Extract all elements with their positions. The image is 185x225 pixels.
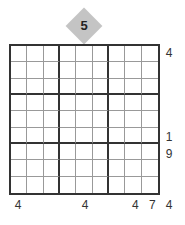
grid-cell[interactable]: [27, 111, 43, 127]
grid-cell[interactable]: [44, 46, 60, 62]
grid-cell[interactable]: [93, 95, 109, 111]
grid-cell[interactable]: [76, 46, 92, 62]
grid-cell[interactable]: [93, 46, 109, 62]
grid-cell[interactable]: [142, 128, 158, 144]
grid-cell[interactable]: [44, 128, 60, 144]
grid-cell[interactable]: [109, 177, 125, 193]
grid-cell[interactable]: [125, 79, 141, 95]
grid-cell[interactable]: [11, 111, 27, 127]
grid-cell[interactable]: [125, 95, 141, 111]
bottom-clue: 7: [145, 198, 159, 212]
grid-cell[interactable]: [142, 46, 158, 62]
grid-cell[interactable]: [109, 95, 125, 111]
grid-cell[interactable]: [60, 62, 76, 78]
grid-cell[interactable]: [11, 144, 27, 160]
grid-cell[interactable]: [125, 46, 141, 62]
grid-cell[interactable]: [11, 46, 27, 62]
grid-cell[interactable]: [142, 62, 158, 78]
grid-cell[interactable]: [93, 62, 109, 78]
grid-cell[interactable]: [109, 128, 125, 144]
grid-cell[interactable]: [76, 62, 92, 78]
grid-cell[interactable]: [11, 128, 27, 144]
grid-cell[interactable]: [44, 111, 60, 127]
grid-cell[interactable]: [125, 177, 141, 193]
grid-cell[interactable]: [142, 95, 158, 111]
grid-cell[interactable]: [27, 177, 43, 193]
grid-cell[interactable]: [93, 111, 109, 127]
grid-cell[interactable]: [142, 177, 158, 193]
grid-cell[interactable]: [76, 111, 92, 127]
grid-cell[interactable]: [44, 144, 60, 160]
grid-cell[interactable]: [125, 128, 141, 144]
grid-cell[interactable]: [93, 128, 109, 144]
grid-cell[interactable]: [11, 95, 27, 111]
grid-cell[interactable]: [27, 144, 43, 160]
bottom-clue: 4: [128, 198, 142, 212]
grid-cell[interactable]: [93, 160, 109, 176]
grid-cell[interactable]: [93, 79, 109, 95]
grid-cell[interactable]: [76, 128, 92, 144]
sudoku-grid: [9, 44, 160, 195]
grid-cell[interactable]: [109, 111, 125, 127]
grid-cell[interactable]: [60, 160, 76, 176]
grid-cell[interactable]: [125, 160, 141, 176]
bottom-clue: 4: [11, 198, 25, 212]
grid-cell[interactable]: [109, 144, 125, 160]
grid-cell[interactable]: [60, 177, 76, 193]
grid-cell[interactable]: [125, 111, 141, 127]
grid-cell[interactable]: [60, 79, 76, 95]
grid-cell[interactable]: [60, 128, 76, 144]
grid-cell[interactable]: [76, 177, 92, 193]
grid-cell[interactable]: [27, 95, 43, 111]
grid-cell[interactable]: [76, 95, 92, 111]
grid-cell[interactable]: [109, 79, 125, 95]
grid-cell[interactable]: [76, 144, 92, 160]
grid-cell[interactable]: [109, 46, 125, 62]
grid-cell[interactable]: [142, 144, 158, 160]
right-clue: 4: [162, 46, 176, 60]
grid-cell[interactable]: [142, 79, 158, 95]
grid-cell[interactable]: [93, 177, 109, 193]
grid-cell[interactable]: [11, 79, 27, 95]
top-clue-value: 5: [67, 14, 101, 38]
grid-cell[interactable]: [109, 62, 125, 78]
grid-cell[interactable]: [125, 144, 141, 160]
grid-cell[interactable]: [44, 62, 60, 78]
grid-cell[interactable]: [44, 177, 60, 193]
grid-cell[interactable]: [11, 160, 27, 176]
grid-cell[interactable]: [60, 144, 76, 160]
grid-cell[interactable]: [93, 144, 109, 160]
grid-cell[interactable]: [142, 160, 158, 176]
grid-cell[interactable]: [60, 46, 76, 62]
grid-cell[interactable]: [27, 62, 43, 78]
grid-cell[interactable]: [11, 177, 27, 193]
grid-cell[interactable]: [60, 95, 76, 111]
grid-cell[interactable]: [76, 160, 92, 176]
right-clue: 1: [162, 130, 176, 144]
bottom-clue: 4: [162, 198, 176, 212]
grid-cell[interactable]: [27, 79, 43, 95]
grid-cell[interactable]: [44, 79, 60, 95]
right-clue: 9: [162, 147, 176, 161]
grid-cell[interactable]: [109, 160, 125, 176]
grid-cell[interactable]: [60, 111, 76, 127]
bottom-clue: 4: [78, 198, 92, 212]
grid-cell[interactable]: [27, 46, 43, 62]
grid-cell[interactable]: [11, 62, 27, 78]
grid-cell[interactable]: [27, 160, 43, 176]
grid-cell[interactable]: [76, 79, 92, 95]
grid-cell[interactable]: [125, 62, 141, 78]
grid-cell[interactable]: [142, 111, 158, 127]
grid-cell[interactable]: [44, 160, 60, 176]
grid-cell[interactable]: [44, 95, 60, 111]
grid-cell[interactable]: [27, 128, 43, 144]
